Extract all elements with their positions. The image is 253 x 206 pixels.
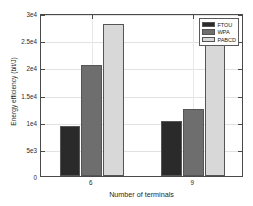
legend-item: WPA — [202, 29, 236, 36]
x-axis-label: Number of terminals — [40, 190, 243, 199]
bar-ftou-9 — [161, 121, 182, 176]
y-tick-mark — [238, 69, 242, 70]
x-tick-mark — [92, 15, 93, 19]
x-axis-tick-labels: 69 — [40, 179, 243, 189]
y-tick-label: 5e3 — [26, 146, 37, 153]
legend: FTOU WPA PABCD — [199, 18, 239, 46]
y-tick-label: 2.5e4 — [21, 38, 37, 45]
bar-pabcd-6 — [103, 24, 124, 176]
y-tick-mark — [41, 151, 45, 152]
y-tick-mark — [41, 15, 45, 16]
bar-ftou-6 — [60, 126, 81, 176]
y-tick-mark — [41, 42, 45, 43]
y-tick-mark — [41, 124, 45, 125]
bar-wpa-6 — [81, 65, 102, 176]
legend-swatch-pabcd — [202, 37, 215, 43]
y-tick-label: 2e4 — [26, 65, 37, 72]
y-tick-label: 3e4 — [26, 11, 37, 18]
y-axis-label: Energy efficiency (bit/J) — [10, 32, 17, 152]
y-tick-mark — [238, 15, 242, 16]
bar-pabcd-9 — [205, 28, 226, 176]
y-tick-mark — [238, 124, 242, 125]
y-tick-label: 1.5e4 — [21, 92, 37, 99]
x-tick-label: 6 — [89, 179, 93, 187]
y-tick-mark — [238, 151, 242, 152]
y-tick-label: 1e4 — [26, 119, 37, 126]
bar-chart-figure: 05e31e41.5e42e42.5e43e4 Energy efficienc… — [0, 0, 253, 206]
legend-item: PABCD — [202, 36, 236, 43]
legend-label-wpa: WPA — [217, 29, 229, 35]
legend-swatch-ftou — [202, 22, 215, 28]
bar-wpa-9 — [183, 109, 204, 176]
plot-area: FTOU WPA PABCD — [40, 14, 243, 177]
y-tick-mark — [41, 97, 45, 98]
y-tick-mark — [238, 97, 242, 98]
gridline — [41, 15, 242, 16]
x-tick-mark — [193, 15, 194, 19]
legend-swatch-wpa — [202, 29, 215, 35]
legend-label-pabcd: PABCD — [217, 37, 236, 43]
legend-label-ftou: FTOU — [217, 22, 232, 28]
y-tick-label: 0 — [33, 174, 37, 181]
y-tick-mark — [41, 69, 45, 70]
x-tick-label: 9 — [190, 179, 194, 187]
legend-item: FTOU — [202, 21, 236, 28]
